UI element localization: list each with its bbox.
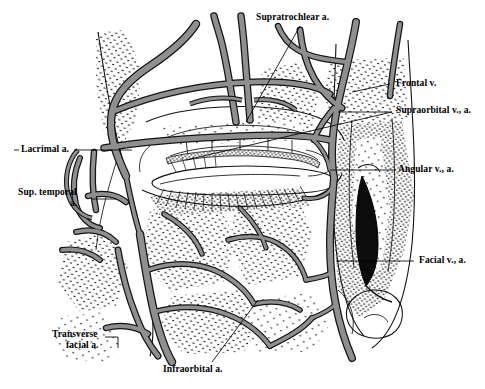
label-sup-temporal-a-line2: a.: [70, 198, 77, 209]
label-supraorbital-v-a: Supraorbital v., a.: [396, 105, 471, 116]
label-transverse-facial-a-line2: facial a.: [66, 340, 99, 351]
label-lacrimal-a: Lacrimal a.: [21, 144, 69, 155]
label-frontal-v: Frontal v.: [396, 78, 436, 89]
label-angular-v-a: Angular v., a.: [398, 164, 454, 175]
label-infraorbital-a: Infraorbital a.: [163, 364, 223, 375]
label-supratrochlear-a: Supratrochlear a.: [256, 12, 329, 23]
illustration-canvas: .vo{fill:none;stroke:#141414;} .vi{fill:…: [0, 0, 485, 389]
label-transverse-facial-a-line1: Transverse: [52, 329, 98, 340]
label-sup-temporal-a-line1: Sup. temporal: [18, 187, 77, 198]
label-facial-v-a: Facial v., a.: [419, 255, 466, 266]
